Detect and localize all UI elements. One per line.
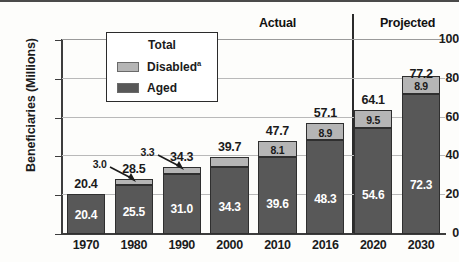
y-tick-40 — [55, 156, 63, 157]
y-tick-60 — [55, 118, 63, 119]
legend-item-disabled: Disableda — [117, 59, 201, 74]
bar-1990: 31.034.3 — [163, 167, 201, 234]
chart-screenshot: Actual Projected Beneficiaries (Millions… — [0, 0, 459, 262]
bar-value-aged-1990: 31.0 — [163, 202, 201, 216]
y-axis-label-80: 80 — [411, 71, 459, 85]
y-axis-label-20: 20 — [411, 187, 459, 201]
bar-1970: 20.420.4 — [67, 194, 105, 234]
bar-value-disabled-2010: 8.1 — [258, 144, 296, 156]
y-axis-label-40: 40 — [411, 148, 459, 162]
bar-value-aged-1970: 20.4 — [67, 208, 105, 222]
y-tick-80 — [55, 79, 63, 80]
legend-label-aged: Aged — [147, 80, 177, 95]
x-axis-label-2020: 2020 — [349, 238, 397, 252]
bar-value-disabled-2016: 8.9 — [306, 127, 344, 139]
bar-value-aged-2016: 48.3 — [306, 192, 344, 206]
bar-2010: 39.68.147.7 — [258, 141, 296, 234]
bar-segment-disabled-1980 — [115, 179, 153, 185]
bar-value-total-2000: 39.7 — [202, 140, 256, 154]
x-axis-label-2010: 2010 — [254, 238, 302, 252]
bar-2016: 48.38.957.1 — [306, 123, 344, 234]
bar-value-total-1980: 28.5 — [107, 162, 161, 176]
bar-segment-disabled-2000 — [210, 157, 248, 167]
y-axis-label-60: 60 — [411, 110, 459, 124]
chart-legend: Total Disableda Aged — [106, 32, 218, 102]
bar-value-disabled-2020: 9.5 — [354, 114, 392, 126]
bar-value-aged-1980: 25.5 — [115, 205, 153, 219]
legend-label-disabled: Disableda — [147, 59, 201, 74]
legend-swatch-disabled-icon — [117, 62, 139, 72]
bar-2020: 54.69.564.1 — [354, 110, 392, 234]
legend-item-aged: Aged — [117, 80, 177, 95]
y-axis-title: Beneficiaries (Millions) — [24, 20, 38, 190]
x-axis-label-2016: 2016 — [301, 238, 349, 252]
x-axis-label-1980: 1980 — [110, 238, 158, 252]
period-header-projected: Projected — [360, 16, 455, 30]
legend-label-disabled-text: Disabled — [147, 60, 197, 74]
y-tick-100 — [55, 40, 63, 41]
bar-value-aged-2020: 54.6 — [354, 188, 392, 202]
bar-segment-aged-2020 — [354, 128, 392, 234]
legend-footnote-marker-disabled: a — [197, 59, 201, 68]
legend-label-aged-text: Aged — [147, 81, 177, 95]
bar-segment-aged-2016 — [306, 140, 344, 234]
y-axis-label-100: 100 — [411, 32, 459, 46]
bar-value-total-2016: 57.1 — [298, 106, 352, 120]
x-axis-label-2030: 2030 — [397, 238, 445, 252]
callout-label-1980: 3.0 — [93, 158, 107, 170]
bar-value-aged-2010: 39.6 — [258, 197, 296, 211]
period-header-actual: Actual — [225, 16, 330, 30]
bar-segment-disabled-1990 — [163, 167, 201, 173]
legend-title: Total — [107, 38, 217, 52]
callout-label-1990: 3.3 — [141, 146, 155, 158]
bar-value-total-1970: 20.4 — [59, 177, 113, 191]
bar-value-total-2010: 47.7 — [250, 124, 304, 138]
x-axis-label-1970: 1970 — [62, 238, 110, 252]
bar-value-total-1990: 34.3 — [155, 150, 209, 164]
y-tick-0 — [55, 234, 63, 235]
legend-swatch-aged-icon — [117, 83, 139, 93]
bar-2000: 34.339.7 — [210, 157, 248, 234]
y-tick-20 — [55, 195, 63, 196]
x-axis-label-2000: 2000 — [206, 238, 254, 252]
bar-1980: 25.528.5 — [115, 179, 153, 234]
bar-value-total-2020: 64.1 — [346, 93, 400, 107]
x-axis-label-1990: 1990 — [158, 238, 206, 252]
bar-value-aged-2000: 34.3 — [210, 200, 248, 214]
bar-segment-aged-2010 — [258, 157, 296, 234]
